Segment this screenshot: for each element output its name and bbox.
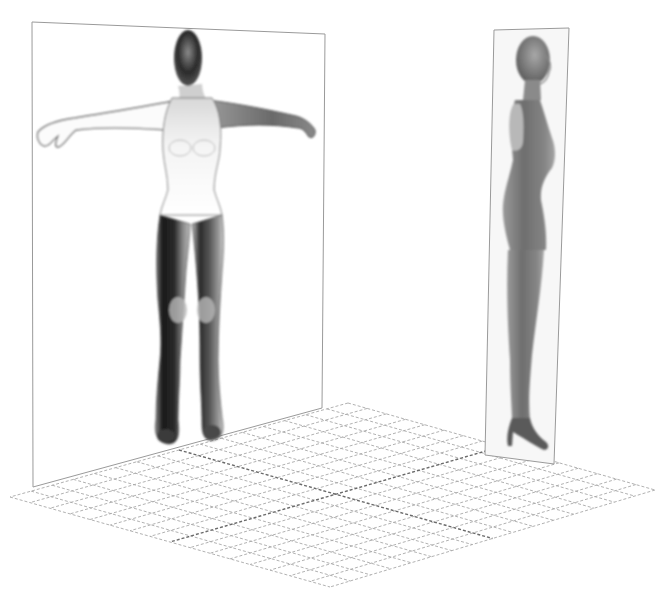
viewport-3d[interactable] — [0, 0, 665, 590]
front-reference-plane[interactable] — [32, 22, 325, 487]
side-reference-plane[interactable] — [485, 28, 569, 464]
